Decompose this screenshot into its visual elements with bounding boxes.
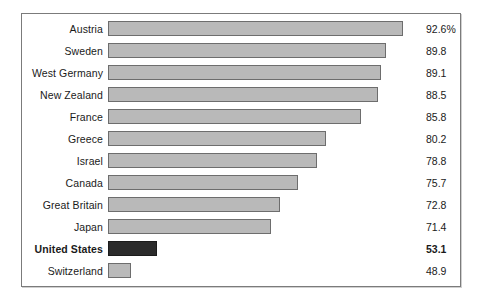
bar-category-label: Greece [22, 133, 103, 145]
bar-value-label: 85.8 [426, 111, 446, 123]
bar [108, 87, 378, 102]
bar-category-label: Japan [22, 221, 103, 233]
bar-track [108, 43, 460, 58]
bar-track [108, 65, 460, 80]
bar [108, 43, 386, 58]
bar-row: Sweden89.8 [22, 40, 460, 62]
bar [108, 65, 381, 80]
bar-row: Great Britain72.8 [22, 194, 460, 216]
bar-track [108, 131, 460, 146]
bar-category-label: Sweden [22, 45, 103, 57]
bar-category-label: West Germany [22, 67, 103, 79]
bar-row: Switzerland48.9 [22, 260, 460, 282]
bar-category-label: Canada [22, 177, 103, 189]
bar-row: West Germany89.1 [22, 62, 460, 84]
bar [108, 241, 157, 256]
bar [108, 131, 326, 146]
chart-frame: Austria92.6%Sweden89.8West Germany89.1Ne… [21, 13, 461, 287]
bar-track [108, 109, 460, 124]
bar-category-label: Austria [22, 23, 103, 35]
bar [108, 197, 280, 212]
bar-row: Austria92.6% [22, 18, 460, 40]
bar-value-label: 53.1 [426, 243, 446, 255]
bar-value-label: 89.1 [426, 67, 446, 79]
bar-row: Greece80.2 [22, 128, 460, 150]
bar-track [108, 87, 460, 102]
bar-row: France85.8 [22, 106, 460, 128]
bar-value-label: 80.2 [426, 133, 446, 145]
bar-track [108, 153, 460, 168]
bar [108, 153, 317, 168]
bar-track [108, 197, 460, 212]
bar [108, 263, 131, 278]
bar-value-label: 75.7 [426, 177, 446, 189]
bar-category-label: Great Britain [22, 199, 103, 211]
bar-row: New Zealand88.5 [22, 84, 460, 106]
bar [108, 109, 361, 124]
bar-value-label: 72.8 [426, 199, 446, 211]
bar-category-label: United States [22, 243, 103, 255]
bar-row: Japan71.4 [22, 216, 460, 238]
bar-track [108, 263, 460, 278]
bar-row: United States53.1 [22, 238, 460, 260]
bar [108, 219, 271, 234]
bar-rows-container: Austria92.6%Sweden89.8West Germany89.1Ne… [22, 14, 460, 286]
bar-category-label: Switzerland [22, 265, 103, 277]
bar-track [108, 241, 460, 256]
bar [108, 21, 403, 36]
bar-value-label: 48.9 [426, 265, 446, 277]
bar-category-label: Israel [22, 155, 103, 167]
bar-value-label: 88.5 [426, 89, 446, 101]
bar-row: Canada75.7 [22, 172, 460, 194]
bar-value-label: 92.6% [426, 23, 456, 35]
bar-track [108, 175, 460, 190]
bar-category-label: France [22, 111, 103, 123]
bar [108, 175, 298, 190]
bar-value-label: 71.4 [426, 221, 446, 233]
bar-track [108, 21, 460, 36]
bar-category-label: New Zealand [22, 89, 103, 101]
bar-track [108, 219, 460, 234]
bar-value-label: 89.8 [426, 45, 446, 57]
bar-row: Israel78.8 [22, 150, 460, 172]
bar-value-label: 78.8 [426, 155, 446, 167]
